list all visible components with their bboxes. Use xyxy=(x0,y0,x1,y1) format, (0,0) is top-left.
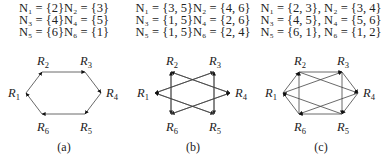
graph-a: R1R2R3R4R5R6 xyxy=(0,0,128,161)
node-label-r3: R3 xyxy=(336,54,349,70)
panel-b: N₁ = {3, 5}N₂ = {4, 6} N₃ = {1, 5}N₄ = {… xyxy=(129,0,257,161)
graph-b: R1R2R3R4R5R6 xyxy=(129,0,257,161)
edge-r4-r5 xyxy=(85,93,101,114)
edge-r1-r2 xyxy=(26,72,42,93)
edge-r3-r4 xyxy=(85,72,101,93)
panel-c: N₁ = {2, 3}, N₂ = {3, 4} N₃ = {4, 5}, N₄… xyxy=(257,0,385,161)
panel-a: N₁ = {2}N₂ = {3} N₃ = {4}N₄ = {5} N₅ = {… xyxy=(0,0,128,161)
node-label-r4: R4 xyxy=(234,86,248,102)
node-label-r6: R6 xyxy=(165,120,178,136)
edge-r2-r4 xyxy=(299,72,358,93)
node-label-r4: R4 xyxy=(362,86,376,102)
edge-r4-r6 xyxy=(299,93,358,114)
node-label-r2: R2 xyxy=(36,54,49,70)
caption-b: (b) xyxy=(129,140,257,155)
edge-r6-r1 xyxy=(26,93,42,114)
node-label-r1: R1 xyxy=(136,86,149,102)
node-label-r2: R2 xyxy=(165,54,178,70)
edge-r5-r1 xyxy=(283,93,342,114)
edge-r6-r4 xyxy=(171,93,230,114)
node-label-r6: R6 xyxy=(36,120,49,136)
edge-r3-r1 xyxy=(155,72,214,93)
node-label-r3: R3 xyxy=(208,54,221,70)
caption-c: (c) xyxy=(257,140,385,155)
node-label-r1: R1 xyxy=(7,86,20,102)
edge-r1-r3 xyxy=(283,72,342,93)
graph-c: R1R2R3R4R5R6 xyxy=(257,0,385,161)
node-label-r5: R5 xyxy=(79,120,92,136)
node-label-r5: R5 xyxy=(208,120,221,136)
node-label-r5: R5 xyxy=(336,120,349,136)
node-label-r3: R3 xyxy=(79,54,92,70)
node-label-r6: R6 xyxy=(293,120,306,136)
node-label-r4: R4 xyxy=(105,86,119,102)
caption-a: (a) xyxy=(0,140,128,155)
edge-r5-r1 xyxy=(155,93,214,114)
edge-r4-r2 xyxy=(171,72,230,93)
node-label-r1: R1 xyxy=(264,86,277,102)
node-label-r2: R2 xyxy=(293,54,306,70)
